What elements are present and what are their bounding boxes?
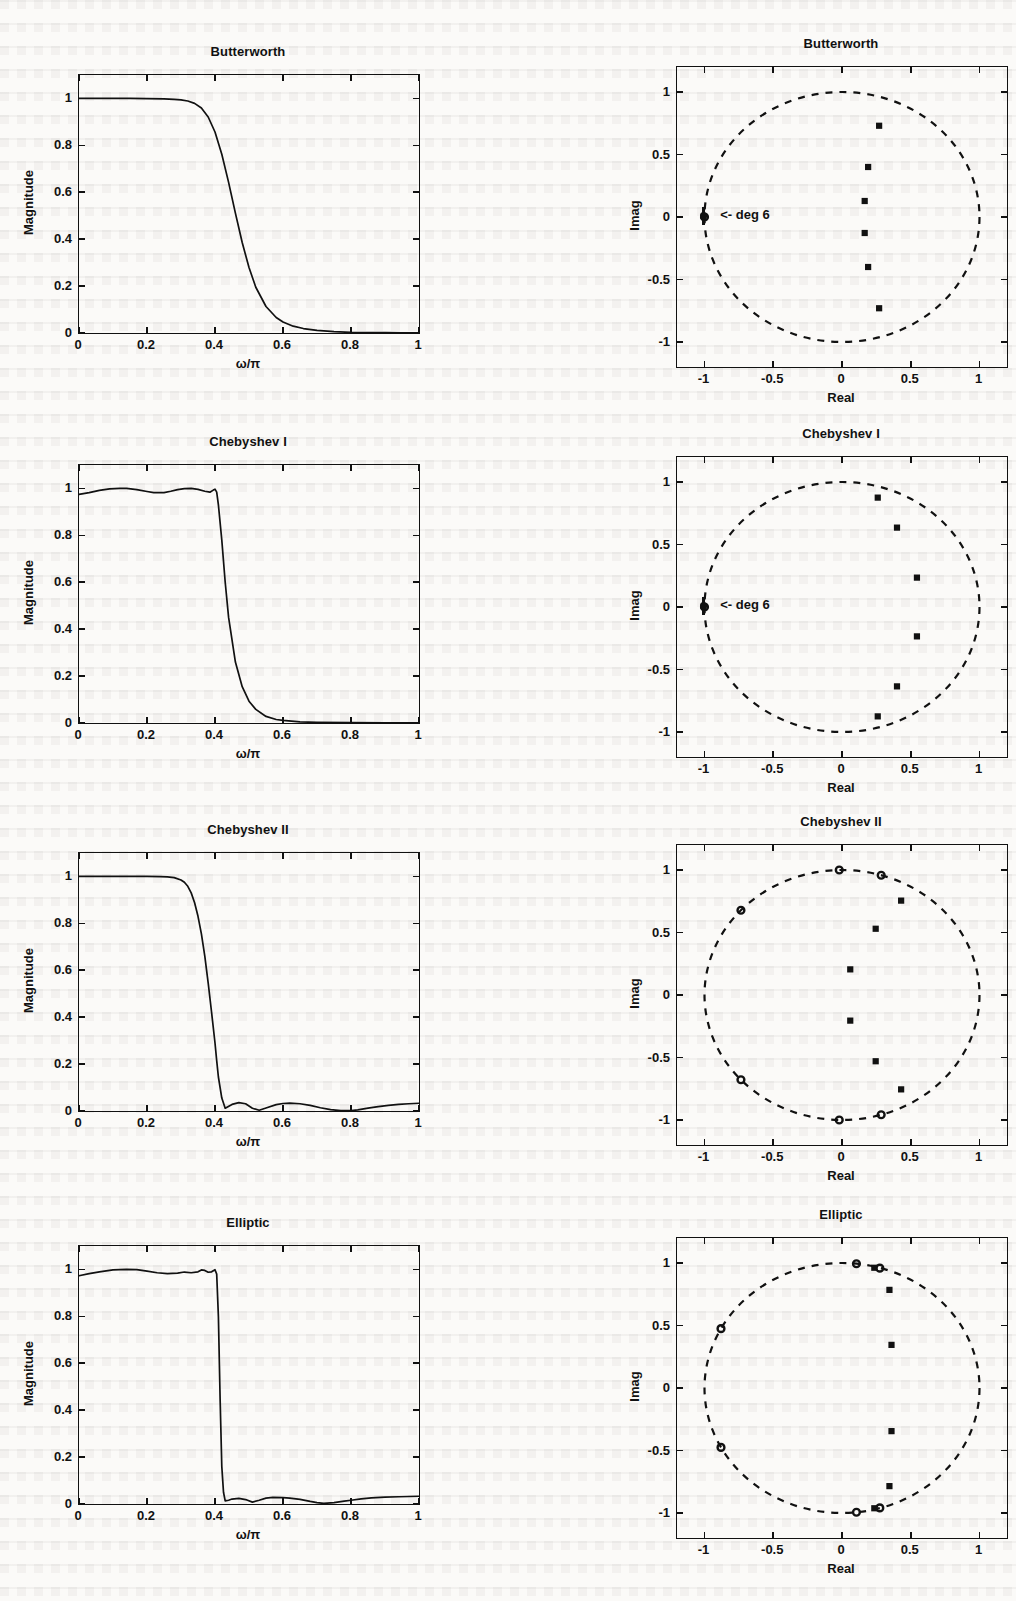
- x-tick-label: -0.5: [761, 1149, 783, 1164]
- y-tick-right: [1001, 1325, 1007, 1327]
- x-tick-top: [282, 1246, 284, 1252]
- x-tick-top: [841, 457, 843, 463]
- x-tick-label: 1: [975, 1542, 982, 1557]
- zero-marker: [836, 867, 843, 874]
- y-tick: [79, 191, 85, 193]
- pole-zero-scatter: [677, 1238, 1007, 1538]
- x-tick: [704, 751, 706, 757]
- x-tick-top: [214, 75, 216, 81]
- pole-marker: [847, 966, 853, 972]
- pole-marker: [914, 575, 920, 581]
- zero-marker: [738, 1076, 745, 1083]
- y-axis-label: Imag: [627, 964, 642, 1024]
- x-tick-label: 0: [74, 337, 81, 352]
- y-tick-label: 0.5: [624, 1317, 670, 1332]
- x-tick-top: [350, 853, 352, 859]
- y-tick-right: [1001, 544, 1007, 546]
- x-tick-top: [772, 1238, 774, 1244]
- y-tick-right: [413, 535, 419, 537]
- y-tick-right: [413, 722, 419, 724]
- x-tick-label: 0.5: [901, 761, 919, 776]
- y-tick-right: [413, 145, 419, 147]
- y-tick: [677, 731, 683, 733]
- x-tick-top: [282, 853, 284, 859]
- plot-title: Chebyshev I: [676, 426, 1006, 441]
- x-tick: [979, 361, 981, 367]
- x-tick: [350, 717, 352, 723]
- y-tick-right: [1001, 154, 1007, 156]
- x-tick-label: 0.4: [205, 337, 223, 352]
- x-tick: [772, 361, 774, 367]
- x-tick-top: [418, 853, 420, 859]
- y-tick: [79, 722, 85, 724]
- x-tick: [282, 1105, 284, 1111]
- x-tick: [772, 751, 774, 757]
- x-tick-label: 0.5: [901, 1149, 919, 1164]
- y-tick: [79, 1110, 85, 1112]
- y-tick-right: [1001, 869, 1007, 871]
- y-tick: [79, 1362, 85, 1364]
- x-tick-label: -1: [698, 1149, 710, 1164]
- y-tick-right: [413, 191, 419, 193]
- magnitude-response-curve: [79, 465, 419, 723]
- x-tick: [910, 361, 912, 367]
- pole-marker: [886, 1287, 892, 1293]
- y-tick: [79, 1016, 85, 1018]
- y-tick: [79, 1316, 85, 1318]
- y-tick: [79, 876, 85, 878]
- x-tick-top: [910, 845, 912, 851]
- x-tick-top: [282, 75, 284, 81]
- y-tick-right: [413, 1016, 419, 1018]
- x-axis-label: Real: [676, 1561, 1006, 1576]
- y-tick: [677, 1450, 683, 1452]
- x-tick-top: [146, 1246, 148, 1252]
- unit-circle: [705, 870, 980, 1120]
- x-tick-label: 1: [414, 337, 421, 352]
- x-tick-label: 0: [837, 761, 844, 776]
- y-tick: [677, 669, 683, 671]
- y-tick: [677, 481, 683, 483]
- y-tick-label: 0.4: [30, 1402, 72, 1417]
- x-tick-top: [350, 1246, 352, 1252]
- y-tick-label: 0.6: [30, 962, 72, 977]
- y-tick-right: [1001, 731, 1007, 733]
- y-tick: [677, 1119, 683, 1121]
- pole-marker: [871, 1505, 877, 1511]
- pole-marker: [898, 1086, 904, 1092]
- y-tick: [677, 932, 683, 934]
- pole-marker: [865, 264, 871, 270]
- y-tick-label: 0.6: [30, 184, 72, 199]
- x-tick-top: [910, 1238, 912, 1244]
- x-tick: [910, 1532, 912, 1538]
- y-tick-label: 1: [624, 474, 670, 489]
- x-tick-top: [78, 75, 80, 81]
- x-tick-label: 0.2: [137, 727, 155, 742]
- magnitude-axes: [78, 74, 420, 334]
- x-tick-label: 0.4: [205, 1508, 223, 1523]
- y-tick-right: [413, 1503, 419, 1505]
- x-tick-top: [78, 1246, 80, 1252]
- y-tick-right: [413, 628, 419, 630]
- y-tick-right: [413, 332, 419, 334]
- y-axis-label: Magnitude: [21, 1334, 36, 1414]
- pole-marker: [875, 495, 881, 501]
- y-tick-label: -0.5: [624, 271, 670, 286]
- x-tick-label: 0.2: [137, 1115, 155, 1130]
- y-tick-label: 0.2: [30, 1056, 72, 1071]
- y-tick-right: [413, 1362, 419, 1364]
- magnitude-axes: [78, 1245, 420, 1505]
- x-tick: [979, 1532, 981, 1538]
- x-tick: [214, 1498, 216, 1504]
- x-tick-top: [146, 853, 148, 859]
- y-tick-label: 0.4: [30, 1009, 72, 1024]
- x-tick-top: [979, 457, 981, 463]
- x-tick-label: -0.5: [761, 371, 783, 386]
- y-tick: [677, 1262, 683, 1264]
- x-tick-top: [704, 1238, 706, 1244]
- x-tick-label: 0.6: [273, 1115, 291, 1130]
- x-tick-top: [772, 67, 774, 73]
- y-tick-label: 0.2: [30, 668, 72, 683]
- y-tick: [677, 216, 683, 218]
- y-tick-label: 0: [30, 715, 72, 730]
- y-axis-label: Magnitude: [21, 163, 36, 243]
